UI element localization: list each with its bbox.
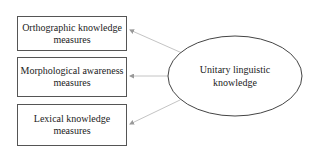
indicator-box-morphological: Morphological awareness measures xyxy=(17,57,127,97)
latent-factor-label: Unitary linguistic knowledge xyxy=(170,63,300,89)
arrow-to-lexical xyxy=(130,100,180,124)
arrow-to-orthographic xyxy=(130,30,182,53)
factor-label-line1: Unitary linguistic xyxy=(170,63,300,76)
indicator-label-line2: measures xyxy=(34,125,110,137)
indicator-box-orthographic: Orthographic knowledge measures xyxy=(17,16,127,51)
indicator-label-line1: Lexical knowledge xyxy=(34,113,110,125)
indicator-label-line2: measures xyxy=(22,34,122,46)
indicator-label-line1: Morphological awareness xyxy=(20,65,123,77)
indicator-label-line2: measures xyxy=(20,77,123,89)
indicator-box-lexical: Lexical knowledge measures xyxy=(17,104,127,146)
factor-label-line2: knowledge xyxy=(170,76,300,89)
indicator-label-line1: Orthographic knowledge xyxy=(22,22,122,34)
